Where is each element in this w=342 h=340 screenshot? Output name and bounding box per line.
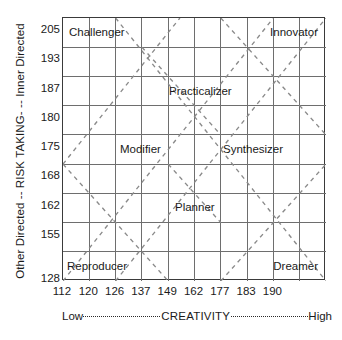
x-axis-low-label: Low <box>62 310 83 322</box>
creativity-risk-taking-matrix: Other Directed -- RISK TAKING- -- Inner … <box>0 0 342 340</box>
x-axis-tick-labels: 112 120 126 137 149 162 177 183 190 <box>0 0 342 340</box>
leader-dots-right <box>231 311 308 321</box>
x-axis-high-label: High <box>308 310 332 322</box>
x-axis-caption: Low CREATIVITY High <box>62 308 332 324</box>
x-tick-190: 190 <box>252 285 292 297</box>
x-axis-title: CREATIVITY <box>160 310 231 322</box>
leader-dots-left <box>83 311 160 321</box>
